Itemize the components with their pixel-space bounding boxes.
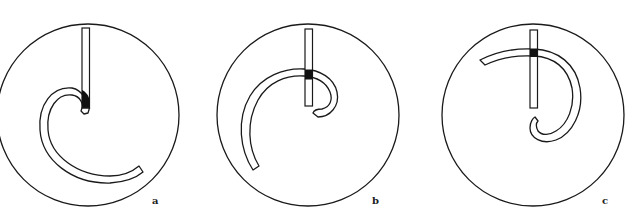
panel-a-curved-band xyxy=(40,88,143,183)
panel-b: b xyxy=(217,24,399,206)
panel-c-junction xyxy=(530,49,538,58)
panel-c: c xyxy=(442,24,624,206)
panel-c-label: c xyxy=(602,195,608,206)
figure: a b c xyxy=(0,0,632,215)
panel-b-label: b xyxy=(372,195,379,206)
panel-b-junction xyxy=(305,70,313,80)
panel-b-rod xyxy=(305,29,313,106)
panel-b-curved-band xyxy=(241,69,337,170)
panel-a: a xyxy=(0,24,179,206)
panel-c-rod xyxy=(530,30,538,108)
panel-a-label: a xyxy=(152,195,159,206)
panel-a-rod-tip xyxy=(81,108,90,114)
